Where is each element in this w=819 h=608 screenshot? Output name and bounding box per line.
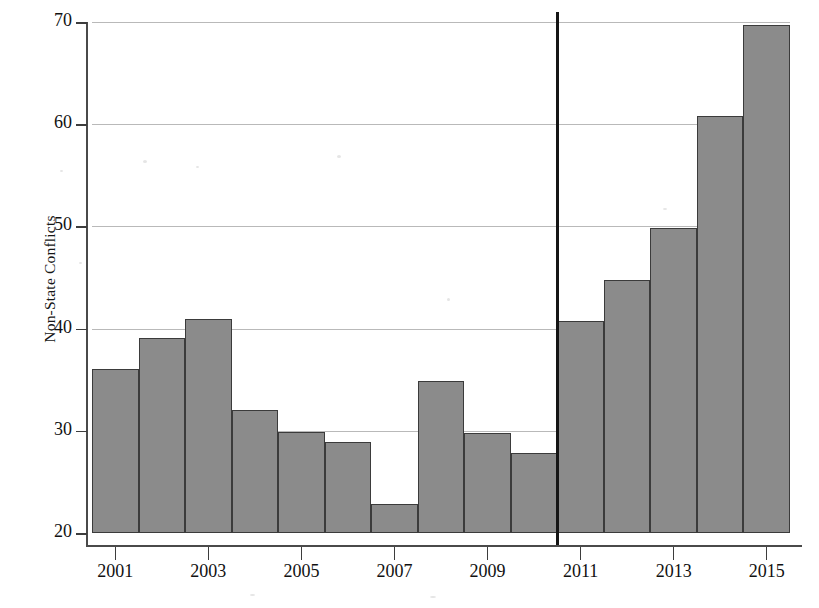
vertical-reference-line <box>556 12 559 545</box>
y-axis-label: 60 <box>26 113 72 131</box>
x-axis-label-2005: 2005 <box>261 562 341 582</box>
bar-2009[interactable] <box>464 433 511 533</box>
x-axis-tick <box>301 547 302 560</box>
y-axis-label: 70 <box>26 11 72 29</box>
x-axis-label-2013: 2013 <box>634 562 714 582</box>
non-state-conflicts-bar-chart: Non-State Conflicts 203040506070 2001200… <box>0 0 819 608</box>
y-axis-tick <box>76 124 87 126</box>
bar-2001[interactable] <box>92 369 139 533</box>
scan-speck <box>663 208 667 210</box>
x-axis-tick <box>394 547 395 560</box>
bar-2013[interactable] <box>650 228 697 533</box>
y-axis-label-wrap: 60 <box>18 124 72 125</box>
x-axis-label-2009: 2009 <box>448 562 528 582</box>
x-axis-tick <box>487 547 488 560</box>
x-axis-tick <box>580 547 581 560</box>
y-axis-tick <box>76 533 87 535</box>
scan-speck <box>79 262 82 264</box>
x-axis-label-2015: 2015 <box>727 562 807 582</box>
bar-2007[interactable] <box>371 504 418 533</box>
bar-2003[interactable] <box>185 319 232 533</box>
scan-speck <box>430 596 436 598</box>
y-axis-tick <box>76 329 87 331</box>
y-axis-tick <box>76 226 87 228</box>
bar-2015[interactable] <box>743 25 790 533</box>
y-axis-label-wrap: 70 <box>18 22 72 23</box>
y-axis-label-wrap: 20 <box>18 533 72 534</box>
y-axis-label-wrap: 30 <box>18 431 72 432</box>
scan-speck <box>196 166 199 168</box>
bar-2004[interactable] <box>232 410 279 533</box>
y-axis-label: 40 <box>26 318 72 336</box>
bar-2005[interactable] <box>278 432 325 533</box>
bar-2012[interactable] <box>604 280 651 533</box>
y-axis-label-wrap: 40 <box>18 329 72 330</box>
scan-speck <box>250 594 255 596</box>
x-axis-label-2003: 2003 <box>168 562 248 582</box>
bar-2011[interactable] <box>557 321 604 533</box>
scan-speck <box>447 298 450 301</box>
y-axis-label: 20 <box>26 522 72 540</box>
bar-2010[interactable] <box>511 453 558 533</box>
y-axis-label: 30 <box>26 420 72 438</box>
plot-area <box>92 22 790 533</box>
scan-speck <box>143 160 147 163</box>
x-axis-tick <box>208 547 209 560</box>
x-axis-tick <box>673 547 674 560</box>
scan-speck <box>337 155 341 158</box>
bar-2014[interactable] <box>697 116 744 533</box>
y-axis-line <box>86 22 88 547</box>
y-axis-tick <box>76 431 87 433</box>
y-axis-label-wrap: 50 <box>18 226 72 227</box>
x-axis-label-2011: 2011 <box>541 562 621 582</box>
y-axis-title: Non-State Conflicts <box>41 159 59 399</box>
x-axis-tick <box>115 547 116 560</box>
x-axis-line <box>86 545 802 547</box>
x-axis-label-2007: 2007 <box>354 562 434 582</box>
y-axis-tick <box>76 22 87 24</box>
bar-2002[interactable] <box>139 338 186 533</box>
scan-speck <box>60 170 63 172</box>
x-axis-tick <box>766 547 767 560</box>
bar-2008[interactable] <box>418 381 465 533</box>
x-axis-label-2001: 2001 <box>75 562 155 582</box>
bar-2006[interactable] <box>325 442 372 533</box>
y-axis-label: 50 <box>26 215 72 233</box>
